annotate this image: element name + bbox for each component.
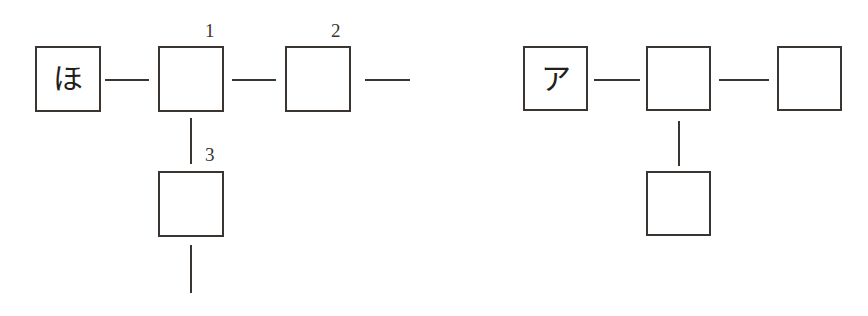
diagram-canvas: ほ123ア: [0, 0, 868, 316]
given-letter-box[interactable]: ア: [523, 46, 588, 111]
connector-horizontal: [719, 79, 769, 81]
connector-horizontal: [594, 79, 640, 81]
right-chain-group: ア: [0, 0, 868, 316]
answer-box[interactable]: [646, 171, 711, 236]
connector-vertical: [678, 121, 680, 166]
answer-box[interactable]: [777, 46, 842, 111]
kana-glyph: ア: [541, 64, 571, 94]
answer-box[interactable]: [646, 46, 711, 111]
